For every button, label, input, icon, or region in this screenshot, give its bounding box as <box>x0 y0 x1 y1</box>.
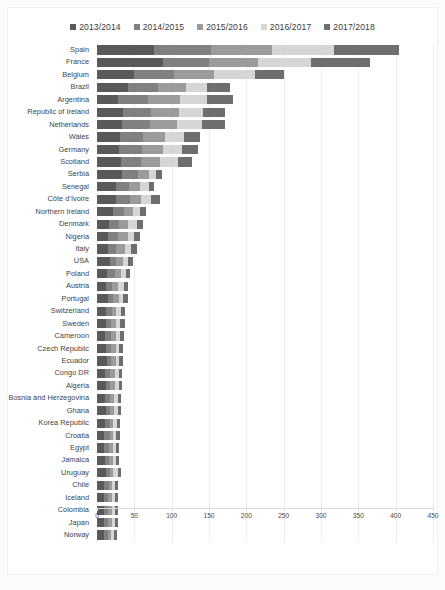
bar-segment-2017-2018 <box>123 294 127 303</box>
bar-row[interactable] <box>97 131 433 143</box>
stacked-bar[interactable] <box>97 319 125 328</box>
stacked-bar[interactable] <box>97 120 225 129</box>
stacked-bar[interactable] <box>97 406 121 415</box>
bar-row[interactable] <box>97 144 433 156</box>
bar-row[interactable] <box>97 380 433 392</box>
bar-segment-2014-2015 <box>123 108 151 117</box>
stacked-bar[interactable] <box>97 170 162 179</box>
stacked-bar[interactable] <box>97 244 137 253</box>
stacked-bar[interactable] <box>97 232 140 241</box>
bar-segment-2015-2016 <box>124 207 133 216</box>
category-label: Wales <box>8 131 93 143</box>
bar-row[interactable] <box>97 181 433 193</box>
bar-segment-2015-2016 <box>116 244 124 253</box>
stacked-bar[interactable] <box>97 257 133 266</box>
axis-tick <box>172 508 173 511</box>
bar-row[interactable] <box>97 392 433 404</box>
stacked-bar[interactable] <box>97 195 160 204</box>
stacked-bar[interactable] <box>97 443 119 452</box>
bar-row[interactable] <box>97 218 433 230</box>
axis-tick <box>321 508 322 511</box>
bar-row[interactable] <box>97 467 433 479</box>
stacked-bar[interactable] <box>97 83 230 92</box>
stacked-bar[interactable] <box>97 269 130 278</box>
bar-segment-2013-2014 <box>97 182 116 191</box>
bar-row[interactable] <box>97 255 433 267</box>
bar-row[interactable] <box>97 479 433 491</box>
bar-segment-2013-2014 <box>97 394 105 403</box>
stacked-bar[interactable] <box>97 145 198 154</box>
bar-row[interactable] <box>97 330 433 342</box>
bar-row[interactable] <box>97 156 433 168</box>
stacked-bar[interactable] <box>97 70 284 79</box>
bar-segment-2015-2016 <box>151 108 179 117</box>
bar-row[interactable] <box>97 168 433 180</box>
stacked-bar[interactable] <box>97 468 121 477</box>
stacked-bar[interactable] <box>97 394 121 403</box>
bar-row[interactable] <box>97 44 433 56</box>
stacked-bar[interactable] <box>97 108 225 117</box>
stacked-bar[interactable] <box>97 456 119 465</box>
stacked-bar[interactable] <box>97 344 123 353</box>
stacked-bar[interactable] <box>97 207 146 216</box>
legend-item-2015-2016[interactable]: 2015/2016 <box>197 22 248 32</box>
axis-tick-label: 50 <box>131 512 138 519</box>
stacked-bar[interactable] <box>97 381 122 390</box>
bar-segment-2017-2018 <box>120 331 124 340</box>
stacked-bar[interactable] <box>97 481 118 490</box>
legend-item-2013-2014[interactable]: 2013/2014 <box>70 22 121 32</box>
bar-row[interactable] <box>97 268 433 280</box>
bar-row[interactable] <box>97 106 433 118</box>
bar-row[interactable] <box>97 56 433 68</box>
bar-segment-2017-2018 <box>207 95 233 104</box>
bar-row[interactable] <box>97 69 433 81</box>
stacked-bar[interactable] <box>97 58 370 67</box>
stacked-bar[interactable] <box>97 356 123 365</box>
bar-segment-2014-2015 <box>163 58 209 67</box>
stacked-bar[interactable] <box>97 431 120 440</box>
stacked-bar[interactable] <box>97 307 125 316</box>
stacked-bar[interactable] <box>97 95 233 104</box>
stacked-bar[interactable] <box>97 157 192 166</box>
bar-row[interactable] <box>97 442 433 454</box>
bar-row[interactable] <box>97 405 433 417</box>
stacked-bar[interactable] <box>97 294 128 303</box>
bar-segment-2016-2017 <box>272 45 335 54</box>
bar-row[interactable] <box>97 454 433 466</box>
bar-row[interactable] <box>97 430 433 442</box>
bar-row[interactable] <box>97 529 433 541</box>
stacked-bar[interactable] <box>97 369 122 378</box>
stacked-bar[interactable] <box>97 220 143 229</box>
legend-item-2017-2018[interactable]: 2017/2018 <box>324 22 375 32</box>
bar-row[interactable] <box>97 367 433 379</box>
bar-row[interactable] <box>97 417 433 429</box>
bar-row[interactable] <box>97 119 433 131</box>
legend-item-2014-2015[interactable]: 2014/2015 <box>134 22 185 32</box>
stacked-bar[interactable] <box>97 530 117 539</box>
bar-row[interactable] <box>97 94 433 106</box>
bar-segment-2013-2014 <box>97 232 108 241</box>
stacked-bar[interactable] <box>97 132 200 141</box>
bar-segment-2013-2014 <box>97 244 108 253</box>
bar-row[interactable] <box>97 355 433 367</box>
bar-row[interactable] <box>97 293 433 305</box>
bar-row[interactable] <box>97 231 433 243</box>
stacked-bar[interactable] <box>97 331 124 340</box>
bar-row[interactable] <box>97 305 433 317</box>
bar-row[interactable] <box>97 318 433 330</box>
bar-row[interactable] <box>97 280 433 292</box>
stacked-bar[interactable] <box>97 493 118 502</box>
bar-row[interactable] <box>97 193 433 205</box>
stacked-bar[interactable] <box>97 282 128 291</box>
bar-row[interactable] <box>97 243 433 255</box>
bar-row[interactable] <box>97 343 433 355</box>
category-label: Northern Ireland <box>8 206 93 218</box>
stacked-bar[interactable] <box>97 45 399 54</box>
bar-row[interactable] <box>97 492 433 504</box>
bar-row[interactable] <box>97 81 433 93</box>
bar-segment-2015-2016 <box>158 83 186 92</box>
bar-row[interactable] <box>97 206 433 218</box>
stacked-bar[interactable] <box>97 419 120 428</box>
stacked-bar[interactable] <box>97 182 154 191</box>
legend-item-2016-2017[interactable]: 2016/2017 <box>261 22 312 32</box>
